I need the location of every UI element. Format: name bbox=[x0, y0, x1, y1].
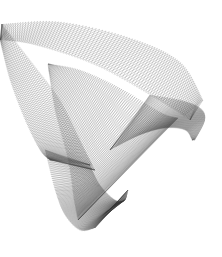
string-art-canvas bbox=[0, 0, 222, 257]
string-art-figure bbox=[0, 0, 222, 257]
